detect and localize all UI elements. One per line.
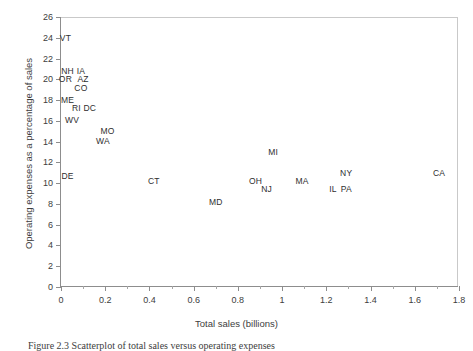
- y-axis-tick-label: 18: [43, 95, 53, 105]
- data-point-wa: WA: [96, 136, 110, 146]
- x-axis-tick-label: 1.2: [320, 295, 333, 305]
- y-axis-tick: [56, 17, 61, 18]
- y-axis-tick-label: 10: [43, 178, 53, 188]
- y-axis-tick: [56, 142, 61, 143]
- y-axis-tick-label: 22: [43, 54, 53, 64]
- x-axis-tick-label: 0: [58, 295, 63, 305]
- data-point-wv: WV: [65, 115, 79, 125]
- plot-right-border: [457, 17, 458, 286]
- data-point-il: IL: [329, 184, 337, 194]
- y-axis-tick-label: 6: [48, 220, 53, 230]
- x-axis-label: Total sales (billions): [0, 318, 473, 329]
- x-axis-tick: [149, 286, 150, 291]
- y-axis-tick-label: 4: [48, 240, 53, 250]
- x-axis-minor-tick: [83, 286, 84, 289]
- x-axis-tick-label: 0.2: [99, 295, 112, 305]
- y-axis-tick-label: 12: [43, 157, 53, 167]
- data-point-nj: NJ: [261, 184, 272, 194]
- y-axis-tick: [56, 245, 61, 246]
- x-axis-tick: [61, 286, 62, 291]
- y-axis-tick: [56, 266, 61, 267]
- x-axis-tick: [371, 286, 372, 291]
- x-axis-tick-label: 0.6: [187, 295, 200, 305]
- x-axis-tick: [326, 286, 327, 291]
- x-axis-tick: [105, 286, 106, 291]
- y-axis-tick: [56, 204, 61, 205]
- y-axis-tick: [56, 162, 61, 163]
- x-axis-minor-tick: [216, 286, 217, 289]
- x-axis-tick: [194, 286, 195, 291]
- data-point-co: CO: [74, 83, 87, 93]
- data-point-ca: CA: [433, 168, 445, 178]
- data-point-ct: CT: [148, 176, 160, 186]
- data-point-mi: MI: [268, 147, 278, 157]
- data-point-oh: OH: [249, 176, 262, 186]
- y-axis-tick-label: 26: [43, 12, 53, 22]
- data-point-md: MD: [209, 197, 223, 207]
- y-axis-tick-label: 24: [43, 33, 53, 43]
- plot-area: 0246810121416182022242600.20.40.60.811.2…: [60, 17, 458, 287]
- data-point-pa: PA: [341, 184, 352, 194]
- x-axis-tick-label: 1: [280, 295, 285, 305]
- y-axis-tick: [56, 59, 61, 60]
- figure-scatterplot: Operating expenses as a percentage of sa…: [0, 0, 473, 351]
- y-axis-label: Operating expenses as a percentage of sa…: [23, 14, 34, 294]
- y-axis-tick: [56, 121, 61, 122]
- x-axis-tick: [459, 286, 460, 291]
- data-point-ny: NY: [340, 168, 352, 178]
- x-axis-tick-label: 1.8: [453, 295, 466, 305]
- y-axis-tick-label: 8: [48, 199, 53, 209]
- x-axis-minor-tick: [172, 286, 173, 289]
- x-axis-tick: [238, 286, 239, 291]
- data-point-ma: MA: [295, 176, 308, 186]
- x-axis-minor-tick: [260, 286, 261, 289]
- x-axis-minor-tick: [304, 286, 305, 289]
- data-point-ri: RI: [72, 103, 81, 113]
- y-axis-tick: [56, 183, 61, 184]
- x-axis-minor-tick: [437, 286, 438, 289]
- y-axis-tick-label: 14: [43, 137, 53, 147]
- y-axis-tick: [56, 225, 61, 226]
- x-axis-tick-label: 0.8: [232, 295, 245, 305]
- figure-caption: Figure 2.3 Scatterplot of total sales ve…: [28, 340, 458, 351]
- y-axis-tick-label: 20: [43, 74, 53, 84]
- x-axis-tick-label: 1.6: [409, 295, 422, 305]
- y-axis-tick-label: 0: [48, 282, 53, 292]
- data-point-dc: DC: [83, 103, 96, 113]
- data-point-vt: VT: [60, 33, 71, 43]
- y-axis-tick-label: 16: [43, 116, 53, 126]
- x-axis-minor-tick: [127, 286, 128, 289]
- x-axis-tick: [415, 286, 416, 291]
- x-axis-tick-label: 0.4: [143, 295, 156, 305]
- x-axis-minor-tick: [393, 286, 394, 289]
- data-point-or: OR: [59, 74, 72, 84]
- x-axis-tick-label: 1.4: [364, 295, 377, 305]
- y-axis-tick-label: 2: [48, 261, 53, 271]
- x-axis-tick: [282, 286, 283, 291]
- data-point-de: DE: [62, 171, 74, 181]
- plot-top-border: [61, 17, 458, 18]
- x-axis-minor-tick: [348, 286, 349, 289]
